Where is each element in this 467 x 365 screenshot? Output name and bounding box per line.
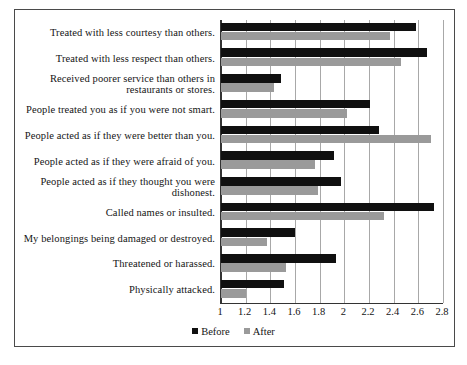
category-label: People acted as if they thought you were… xyxy=(17,176,215,199)
x-tick-label: 2 xyxy=(341,305,346,319)
chart-legend: BeforeAfter xyxy=(0,324,467,338)
x-axis-tick-labels: 11.21.41.61.822.22.42.62.8 xyxy=(220,305,443,321)
bar-before xyxy=(221,48,427,57)
category-label: Threatened or harassed. xyxy=(17,258,215,270)
bar-chart-figure: Treated with less courtesy than others.T… xyxy=(0,0,467,365)
bar-group xyxy=(221,97,443,123)
bar-group xyxy=(221,226,443,252)
x-tick-label: 2.6 xyxy=(411,305,424,319)
category-axis-labels: Treated with less courtesy than others.T… xyxy=(18,20,218,303)
x-axis-line xyxy=(220,303,443,304)
category-label: People treated you as if you were not sm… xyxy=(17,104,215,116)
category-label: My belongings being damaged or destroyed… xyxy=(17,233,215,245)
bar-before xyxy=(221,23,416,32)
bar-after xyxy=(221,83,274,92)
bar-before xyxy=(221,100,370,109)
legend-item: After xyxy=(244,324,275,338)
x-tick-label: 2.8 xyxy=(435,305,448,319)
legend-label: Before xyxy=(201,326,230,337)
bar-before xyxy=(221,151,334,160)
x-tick-label: 2.2 xyxy=(361,305,374,319)
bar-group xyxy=(221,149,443,175)
bar-group xyxy=(221,252,443,278)
category-label: Received poorer service than others in r… xyxy=(17,73,215,96)
chart-body: Treated with less courtesy than others.T… xyxy=(0,0,467,365)
x-tick-label: 2.4 xyxy=(386,305,399,319)
bar-before xyxy=(221,177,341,186)
legend-swatch-icon xyxy=(192,328,198,334)
legend-swatch-icon xyxy=(244,328,250,334)
x-tick-label: 1.2 xyxy=(238,305,251,319)
category-label: Treated with less courtesy than others. xyxy=(17,27,215,39)
bar-group xyxy=(221,71,443,97)
bar-before xyxy=(221,280,284,289)
category-label: People acted as if they were better than… xyxy=(17,130,215,142)
bar-group xyxy=(221,20,443,46)
plot-area xyxy=(220,20,443,303)
category-label: Physically attacked. xyxy=(17,284,215,296)
bar-before xyxy=(221,126,379,135)
bar-after xyxy=(221,212,384,221)
bar-after xyxy=(221,289,246,298)
bar-after xyxy=(221,109,347,118)
bar-after xyxy=(221,238,267,247)
legend-label: After xyxy=(253,326,275,337)
category-label: Treated with less respect than others. xyxy=(17,53,215,65)
bar-before xyxy=(221,228,295,237)
x-tick-label: 1.6 xyxy=(287,305,300,319)
bar-after xyxy=(221,135,431,144)
bar-group xyxy=(221,174,443,200)
bar-after xyxy=(221,58,401,67)
bar-group xyxy=(221,200,443,226)
bar-after xyxy=(221,160,315,169)
category-label: People acted as if they were afraid of y… xyxy=(17,156,215,168)
bar-group xyxy=(221,46,443,72)
bar-before xyxy=(221,74,281,83)
bar-after xyxy=(221,186,318,195)
gridline xyxy=(443,20,444,303)
x-tick-label: 1.4 xyxy=(263,305,276,319)
x-tick-label: 1 xyxy=(217,305,222,319)
bar-after xyxy=(221,32,390,41)
bar-before xyxy=(221,254,336,263)
legend-item: Before xyxy=(192,324,230,338)
bar-group xyxy=(221,277,443,303)
bar-before xyxy=(221,203,434,212)
category-label: Called names or insulted. xyxy=(17,207,215,219)
x-tick-label: 1.8 xyxy=(312,305,325,319)
bar-group xyxy=(221,123,443,149)
bar-after xyxy=(221,263,286,272)
